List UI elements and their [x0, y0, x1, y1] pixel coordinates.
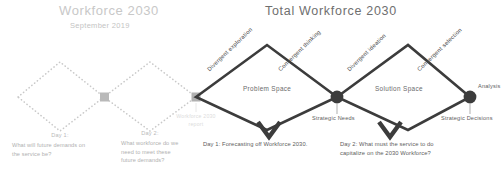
right-phase-title: Total Workforce 2030 — [265, 4, 397, 18]
left-step-2-body: What workforce do we need to meet these … — [121, 139, 207, 165]
left-phase-title: Workforce 2030 — [59, 3, 159, 18]
strategic-needs-label: Strategic Needs — [312, 115, 355, 121]
left-step-1-body: What will future demands on the service … — [12, 141, 112, 158]
caption-day-1: Day 1: Forecasting off Workforce 2030. — [203, 140, 328, 149]
node-analysis — [464, 91, 477, 104]
left-phase-subtitle: September 2019 — [70, 21, 130, 30]
chevron-day2 — [379, 122, 401, 137]
faded-node-mid — [100, 93, 109, 102]
node-strategic-needs — [331, 91, 344, 104]
analysis-label: Analysis — [478, 83, 500, 89]
strategic-decisions-label: Strategic Decisions — [441, 115, 493, 121]
diagram-canvas: Workforce 2030 September 2019 Total Work… — [0, 0, 504, 169]
left-step-1-heading: Day 1: — [36, 132, 84, 138]
workforce-report-note: Workforce 2030 report — [172, 113, 220, 129]
solution-space-label: Solution Space — [375, 85, 423, 92]
problem-space-label: Problem Space — [243, 85, 291, 92]
caption-day-2: Day 2: What must the service to do capit… — [340, 140, 476, 158]
left-step-2-heading: Day 2: — [126, 130, 174, 136]
faded-diamond-1 — [18, 62, 104, 131]
